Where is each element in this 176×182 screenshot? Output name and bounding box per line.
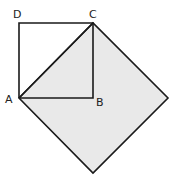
label-a: A <box>5 93 13 106</box>
diagram-canvas: D C A B <box>0 0 176 182</box>
label-d: D <box>13 8 21 21</box>
pythagoras-diagram: D C A B <box>0 0 176 182</box>
label-c: C <box>89 8 97 21</box>
label-b: B <box>96 96 104 109</box>
